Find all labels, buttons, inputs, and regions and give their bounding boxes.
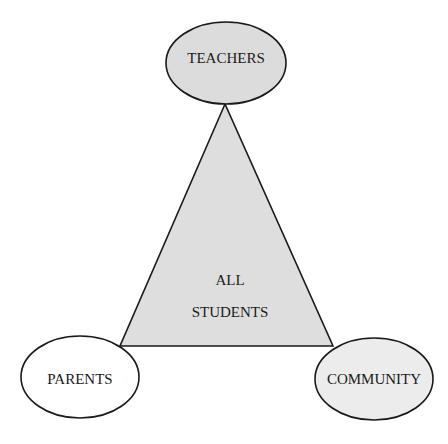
- diagram-svg: TEACHERS PARENTS COMMUNITY ALL STUDENTS: [0, 0, 448, 444]
- community-label: COMMUNITY: [327, 371, 421, 387]
- parents-label: PARENTS: [47, 371, 112, 387]
- teachers-label: TEACHERS: [187, 50, 265, 66]
- all-label: ALL: [215, 272, 244, 288]
- diagram-canvas: TEACHERS PARENTS COMMUNITY ALL STUDENTS: [0, 0, 448, 444]
- students-label: STUDENTS: [192, 304, 269, 320]
